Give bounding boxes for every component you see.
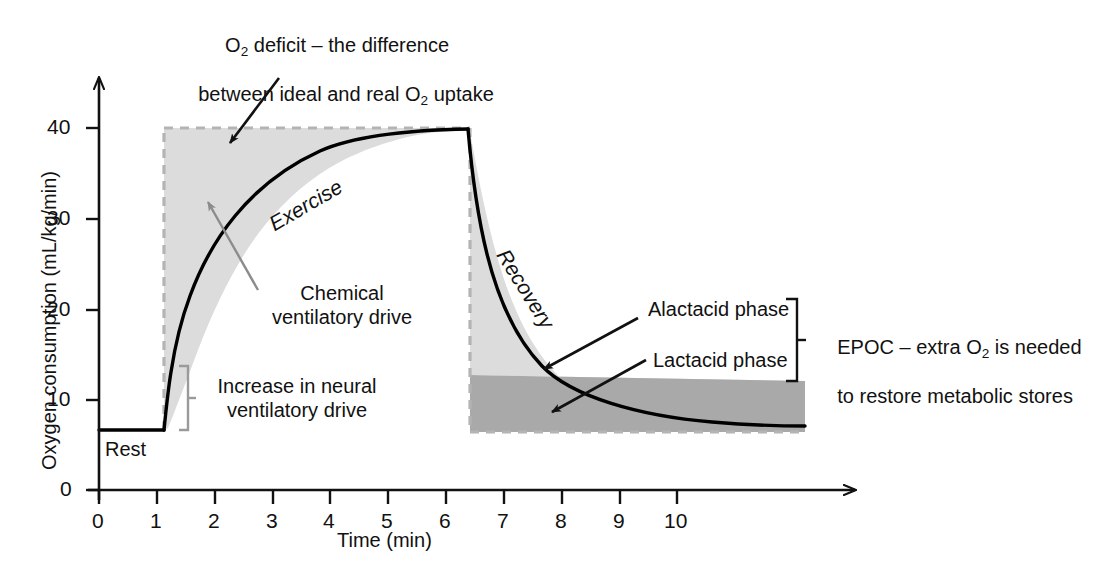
neural-ventilatory-drive-label: Increase in neural ventilatory drive bbox=[202, 375, 392, 422]
y-tick-20: 20 bbox=[47, 297, 70, 322]
x-tick-5: 5 bbox=[381, 509, 393, 534]
rest-label: Rest bbox=[105, 438, 146, 462]
chart-canvas bbox=[0, 0, 1113, 578]
x-tick-7: 7 bbox=[497, 509, 509, 534]
o2-deficit-annotation: O2 deficit – the difference between idea… bbox=[176, 10, 476, 133]
epoc-line2: to restore metabolic stores bbox=[837, 385, 1073, 407]
y-tick-30: 30 bbox=[47, 206, 70, 231]
x-tick-9: 9 bbox=[613, 509, 625, 534]
chart-figure: Oxygen consumption (mL/kg/min) Time (min… bbox=[0, 0, 1113, 578]
x-tick-6: 6 bbox=[439, 509, 451, 534]
alactacid-phase-label: Alactacid phase bbox=[648, 298, 789, 322]
x-tick-8: 8 bbox=[555, 509, 567, 534]
y-tick-40: 40 bbox=[47, 115, 70, 140]
lactacid-phase-label: Lactacid phase bbox=[653, 349, 788, 373]
alactacid-arrow bbox=[544, 318, 638, 369]
x-tick-2: 2 bbox=[208, 509, 220, 534]
y-tick-10: 10 bbox=[47, 387, 70, 412]
o2-deficit-line2: between ideal and real O2 uptake bbox=[198, 83, 494, 105]
epoc-line1: EPOC – extra O2 is needed bbox=[837, 336, 1081, 358]
chemical-ventilatory-drive-label: Chemical ventilatory drive bbox=[252, 282, 432, 329]
epoc-annotation: EPOC – extra O2 is needed to restore met… bbox=[815, 312, 1105, 432]
x-tick-0: 0 bbox=[92, 509, 104, 534]
x-tick-10: 10 bbox=[664, 509, 687, 534]
y-tick-0: 0 bbox=[60, 477, 72, 502]
x-tick-3: 3 bbox=[266, 509, 278, 534]
x-tick-1: 1 bbox=[150, 509, 162, 534]
o2-deficit-line1: O2 deficit – the difference bbox=[225, 34, 449, 56]
x-tick-4: 4 bbox=[323, 509, 335, 534]
